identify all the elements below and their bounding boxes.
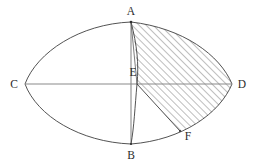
vertex-dot-A	[130, 21, 133, 24]
geometry-figure: A B C D E F	[0, 0, 253, 166]
hatched-region-fill	[131, 22, 232, 131]
point-label-B: B	[127, 149, 135, 161]
vertex-dot-B	[130, 143, 132, 145]
point-label-F: F	[185, 130, 191, 142]
point-label-A: A	[127, 5, 136, 17]
vertex-dot-F	[179, 130, 181, 132]
point-label-D: D	[238, 78, 246, 90]
point-label-C: C	[10, 78, 18, 90]
point-label-E: E	[129, 66, 136, 78]
hatched-region	[131, 22, 232, 131]
diagram-canvas: A B C D E F	[0, 0, 253, 166]
